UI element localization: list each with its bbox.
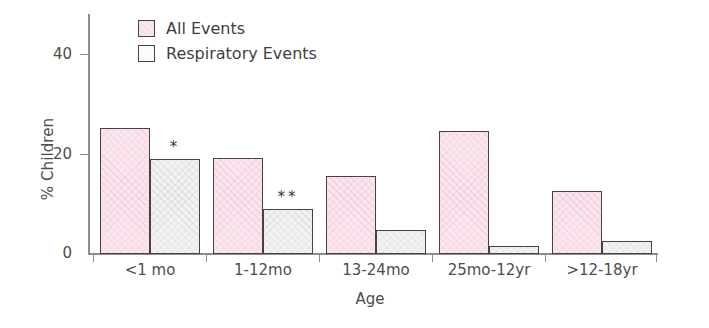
y-tick-mark-20 — [80, 154, 89, 155]
bar-all-events-4 — [552, 191, 602, 254]
x-tick-label-3: 25mo-12yr — [435, 261, 543, 279]
x-tick-label-2: 13-24mo — [326, 261, 426, 279]
legend-swatch-respiratory-events-icon — [138, 45, 155, 62]
legend-label-all-events: All Events — [166, 19, 245, 38]
x-tick-label-0: <1 mo — [100, 261, 200, 279]
x-tick-mark-0 — [93, 254, 94, 262]
legend-swatch-all-events-icon — [138, 20, 155, 37]
y-tick-label-0: 0 — [32, 244, 72, 262]
y-axis-line — [88, 14, 90, 254]
y-tick-label-40: 40 — [32, 45, 72, 63]
x-tick-mark-2 — [319, 254, 320, 262]
bar-all-events-0 — [100, 128, 150, 254]
x-tick-mark-1 — [206, 254, 207, 262]
legend-label-respiratory-events: Respiratory Events — [166, 44, 317, 63]
bar-respiratory-events-4 — [602, 241, 652, 254]
x-axis-label: Age — [340, 290, 400, 308]
x-tick-mark-3 — [432, 254, 433, 262]
bar-all-events-3 — [439, 131, 489, 254]
y-tick-label-20: 20 — [32, 145, 72, 163]
bar-chart: % Children 40 20 0 * ** <1 mo 1-12mo 13-… — [0, 0, 709, 328]
bar-respiratory-events-0 — [150, 159, 200, 254]
bar-respiratory-events-2 — [376, 230, 426, 254]
legend-item-respiratory-events: Respiratory Events — [138, 41, 317, 66]
bar-respiratory-events-3 — [489, 246, 539, 254]
significance-marker-0: * — [160, 138, 190, 156]
x-tick-label-4: >12-18yr — [550, 261, 654, 279]
legend-item-all-events: All Events — [138, 16, 317, 41]
bar-respiratory-events-1 — [263, 209, 313, 254]
legend: All Events Respiratory Events — [138, 16, 317, 66]
x-tick-label-1: 1-12mo — [213, 261, 313, 279]
y-tick-mark-40 — [80, 54, 89, 55]
significance-marker-1: ** — [273, 188, 303, 206]
bar-all-events-2 — [326, 176, 376, 254]
x-tick-mark-5 — [656, 254, 657, 262]
x-tick-mark-4 — [545, 254, 546, 262]
bar-all-events-1 — [213, 158, 263, 254]
